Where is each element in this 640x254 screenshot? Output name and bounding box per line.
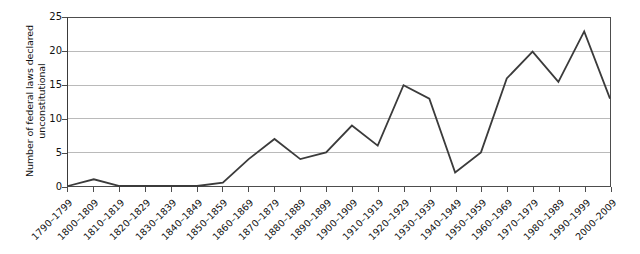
- x-tick-label: 1960–1969: [423, 197, 515, 254]
- plot-area: [67, 17, 611, 187]
- y-tick-label: 20: [40, 46, 62, 56]
- x-tick-mark: [67, 187, 68, 192]
- y-tick-label: 5: [40, 148, 62, 158]
- x-tick-mark: [378, 187, 379, 192]
- x-tick-label: 1890–1899: [242, 197, 334, 254]
- x-tick-label: 1950–1959: [397, 197, 489, 254]
- x-tick-label: 1910–1919: [293, 197, 385, 254]
- y-tick-mark: [62, 85, 67, 86]
- x-tick-label: 1980–1989: [475, 197, 567, 254]
- x-tick-mark: [93, 187, 94, 192]
- x-tick-mark: [222, 187, 223, 192]
- x-tick-mark: [274, 187, 275, 192]
- x-tick-label: 1930–1939: [345, 197, 437, 254]
- x-tick-label: 1940–1949: [371, 197, 463, 254]
- x-tick-label: 1820–1829: [60, 197, 152, 254]
- line-chart: Number of federal laws declared unconsti…: [0, 0, 640, 254]
- plot-svg: [68, 18, 610, 186]
- x-tick-mark: [430, 187, 431, 192]
- x-tick-mark: [119, 187, 120, 192]
- x-tick-label: 1970–1979: [449, 197, 541, 254]
- y-tick-label: 25: [40, 12, 62, 22]
- x-tick-mark: [559, 187, 560, 192]
- x-tick-mark: [145, 187, 146, 192]
- x-tick-mark: [171, 187, 172, 192]
- y-axis-tick-labels: 0510152025: [40, 0, 62, 254]
- x-tick-label: 1920–1929: [319, 197, 411, 254]
- y-tick-label: 0: [40, 182, 62, 192]
- x-tick-mark: [456, 187, 457, 192]
- y-tick-mark: [62, 187, 67, 188]
- x-tick-mark: [611, 187, 612, 192]
- y-tick-label: 15: [40, 80, 62, 90]
- x-tick-label: 1860–1869: [164, 197, 256, 254]
- x-tick-mark: [248, 187, 249, 192]
- x-tick-mark: [352, 187, 353, 192]
- x-tick-mark: [507, 187, 508, 192]
- x-tick-mark: [404, 187, 405, 192]
- y-tick-mark: [62, 119, 67, 120]
- x-tick-mark: [326, 187, 327, 192]
- x-tick-mark: [481, 187, 482, 192]
- x-tick-label: 2000–2009: [527, 197, 619, 254]
- x-tick-mark: [585, 187, 586, 192]
- x-tick-label: 1850–1859: [138, 197, 230, 254]
- x-tick-mark: [197, 187, 198, 192]
- gridlines: [68, 52, 610, 153]
- x-tick-label: 1830–1839: [86, 197, 178, 254]
- y-tick-mark: [62, 51, 67, 52]
- y-tick-mark: [62, 153, 67, 154]
- x-tick-label: 1880–1889: [216, 197, 308, 254]
- x-tick-mark: [300, 187, 301, 192]
- y-tick-label: 10: [40, 114, 62, 124]
- x-tick-label: 1900–1909: [268, 197, 360, 254]
- x-tick-label: 1790–1799: [0, 197, 75, 254]
- y-tick-mark: [62, 17, 67, 18]
- x-tick-label: 1840–1849: [112, 197, 204, 254]
- x-tick-mark: [533, 187, 534, 192]
- series-line: [68, 31, 610, 186]
- x-tick-label: 1990–1999: [501, 197, 593, 254]
- x-tick-label: 1870–1879: [190, 197, 282, 254]
- x-axis-ticks: [67, 187, 611, 193]
